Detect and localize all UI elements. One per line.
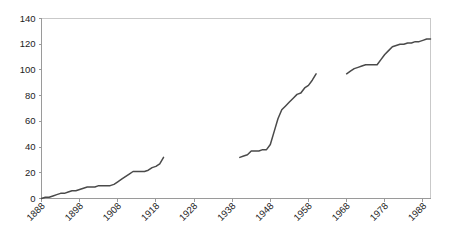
y-tick-label: 40	[25, 141, 36, 152]
x-tick-label: 1888	[24, 200, 47, 223]
x-tick-label: 1958	[291, 200, 314, 223]
plot-area-rect	[42, 19, 431, 199]
y-axis-tick-labels: 020406080100120140	[20, 13, 36, 204]
x-axis-tick-labels: 1888189819081918192819381948195819681978…	[24, 200, 428, 223]
x-tick-label: 1898	[62, 200, 85, 223]
y-tick-label: 140	[20, 13, 36, 24]
y-tick-label: 60	[25, 115, 36, 126]
x-tick-label: 1938	[215, 200, 238, 223]
x-tick-label: 1968	[329, 200, 352, 223]
y-tick-label: 120	[20, 38, 36, 49]
y-tick-label: 0	[30, 193, 35, 204]
series-path-segment-2	[240, 74, 316, 158]
y-tick-label: 100	[20, 64, 36, 75]
plot-area-border	[42, 19, 431, 199]
y-tick-label: 80	[25, 90, 36, 101]
x-tick-label: 1908	[100, 200, 123, 223]
x-tick-label: 1978	[367, 200, 390, 223]
data-series-lines	[42, 39, 431, 198]
chart-canvas: 020406080100120140 188818981908191819281…	[0, 0, 452, 239]
x-tick-label: 1928	[177, 200, 200, 223]
cumulative-line-chart: 020406080100120140 188818981908191819281…	[0, 0, 452, 239]
x-tick-label: 1988	[406, 200, 429, 223]
x-tick-label: 1948	[253, 200, 276, 223]
y-tick-label: 20	[25, 167, 36, 178]
series-path-segment-3	[347, 39, 431, 74]
chart-axes	[42, 19, 431, 199]
x-tick-label: 1918	[139, 200, 162, 223]
series-path-segment-1	[42, 157, 164, 198]
